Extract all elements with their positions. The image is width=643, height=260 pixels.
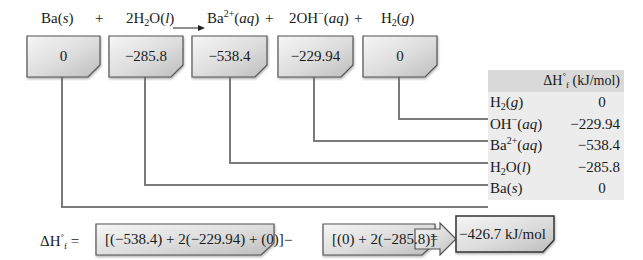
connector-ba2 xyxy=(229,77,231,163)
table-row: Ba2+(aq) −538.4 xyxy=(488,135,624,157)
table-row: H2(g) 0 xyxy=(488,92,624,114)
species-cell: Ba2+(aq) xyxy=(488,135,564,157)
connector-ba xyxy=(61,77,63,207)
species-hydrogen-gas: H2(g) xyxy=(381,10,414,27)
connector-ba2-h xyxy=(229,162,488,164)
value-text: −285.8 xyxy=(125,48,167,65)
species-cell: H2(g) xyxy=(488,92,564,114)
connector-h2 xyxy=(398,77,400,119)
reaction-arrow-icon xyxy=(173,18,205,36)
species-cell: Ba(s) xyxy=(488,178,564,200)
value-cell: 0 xyxy=(564,92,624,114)
species-water-liquid: 2H2O(l) xyxy=(126,10,174,27)
products-sum-box: [(−538.4) + 2(−229.94) + (0)] xyxy=(95,223,275,255)
value-box-h2o: −285.8 xyxy=(108,35,184,77)
value-text: 0 xyxy=(60,48,68,65)
connector-oh xyxy=(313,77,315,141)
value-cell: −229.94 xyxy=(564,114,624,136)
table-row: Ba(s) 0 xyxy=(488,178,624,200)
products-sum-text: [(−538.4) + 2(−229.94) + (0)] xyxy=(95,231,284,248)
species-barium-ion: Ba2+(aq) xyxy=(207,10,259,27)
plus-sign: + xyxy=(95,10,103,27)
delta-h-label: ΔH°f = xyxy=(40,233,79,250)
species-ba-solid: Ba(s) xyxy=(41,10,74,27)
value-box-oh-minus: −229.94 xyxy=(277,35,354,77)
value-text: 0 xyxy=(396,48,404,65)
table-row: OH−(aq) −229.94 xyxy=(488,114,624,136)
value-box-h2: 0 xyxy=(362,35,438,77)
value-text: −229.94 xyxy=(291,48,341,65)
species-cell: H2O(l) xyxy=(488,157,564,179)
result-box: −426.7 kJ/mol xyxy=(455,215,555,253)
species-hydroxide-ion: 2OH−(aq) xyxy=(289,10,349,27)
connector-oh-h xyxy=(313,140,488,142)
connector-h2-h xyxy=(398,118,488,120)
enthalpy-table: ΔH°f (kJ/mol) H2(g) 0 OH−(aq) −229.94 Ba… xyxy=(488,70,624,200)
species-cell: OH−(aq) xyxy=(488,114,564,136)
value-cell: −285.8 xyxy=(564,157,624,179)
value-box-ba2plus: −538.4 xyxy=(191,35,268,77)
value-text: −538.4 xyxy=(208,48,250,65)
value-cell: 0 xyxy=(564,178,624,200)
table-header: ΔH°f (kJ/mol) xyxy=(488,70,624,92)
plus-sign: + xyxy=(265,10,273,27)
connector-ba-h xyxy=(61,206,488,208)
table-row: H2O(l) −285.8 xyxy=(488,157,624,179)
reactants-sum-text: [(0) + 2(−285.8)] xyxy=(322,231,435,248)
connector-h2o xyxy=(144,77,146,185)
value-cell: −538.4 xyxy=(564,135,624,157)
value-box-ba: 0 xyxy=(26,35,101,77)
connector-h2o-h xyxy=(144,184,488,186)
plus-sign: + xyxy=(354,10,362,27)
minus-sign: − xyxy=(284,232,292,249)
result-text: −426.7 kJ/mol xyxy=(455,226,546,243)
